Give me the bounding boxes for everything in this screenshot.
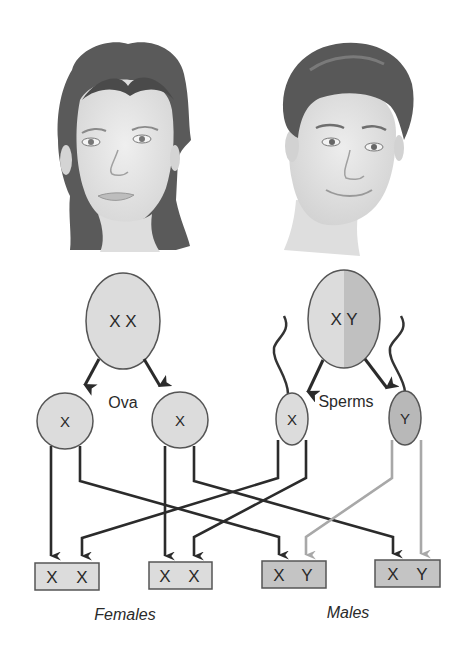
female-cell-label: X X (109, 312, 136, 331)
sperm-y-label: Y (400, 410, 410, 427)
offspring-2-chrom-b: X (188, 567, 199, 586)
female-portrait (58, 42, 191, 252)
offspring-4-chrom-a: X (387, 565, 398, 584)
males-caption: Males (327, 604, 370, 621)
sperm-x: X (276, 393, 308, 445)
sperm-y-tail (390, 316, 405, 392)
offspring-box-3: X Y (262, 561, 326, 588)
offspring-box-2: X X (149, 562, 212, 589)
sex-determination-diagram: X X X Y X (0, 0, 469, 647)
offspring-box-1: X X (35, 563, 99, 590)
offspring-3-chrom-a: X (273, 566, 284, 585)
sperm-x-tail (274, 316, 288, 394)
offspring-box-4: X Y (375, 560, 440, 587)
ovum-right: X (152, 392, 208, 448)
offspring-1-chrom-b: X (76, 568, 87, 587)
male-cell-label: X Y (330, 310, 357, 329)
male-portrait (283, 43, 414, 256)
sperms-label: Sperms (318, 393, 373, 410)
fertilization-paths (51, 440, 421, 556)
female-parent-cell: X X (86, 273, 160, 369)
offspring-4-chrom-b: Y (416, 565, 427, 584)
offspring-2-chrom-a: X (159, 567, 170, 586)
offspring-1-chrom-a: X (46, 568, 57, 587)
females-caption: Females (94, 606, 155, 623)
ovum-right-label: X (175, 412, 185, 429)
ovum-left: X (37, 393, 93, 449)
offspring-3-chrom-b: Y (301, 566, 312, 585)
ova-label: Ova (108, 394, 137, 411)
sperm-x-label: X (287, 411, 297, 428)
ovum-left-label: X (60, 413, 70, 430)
male-parent-cell: X Y (308, 270, 380, 368)
sperm-y: Y (389, 391, 421, 445)
